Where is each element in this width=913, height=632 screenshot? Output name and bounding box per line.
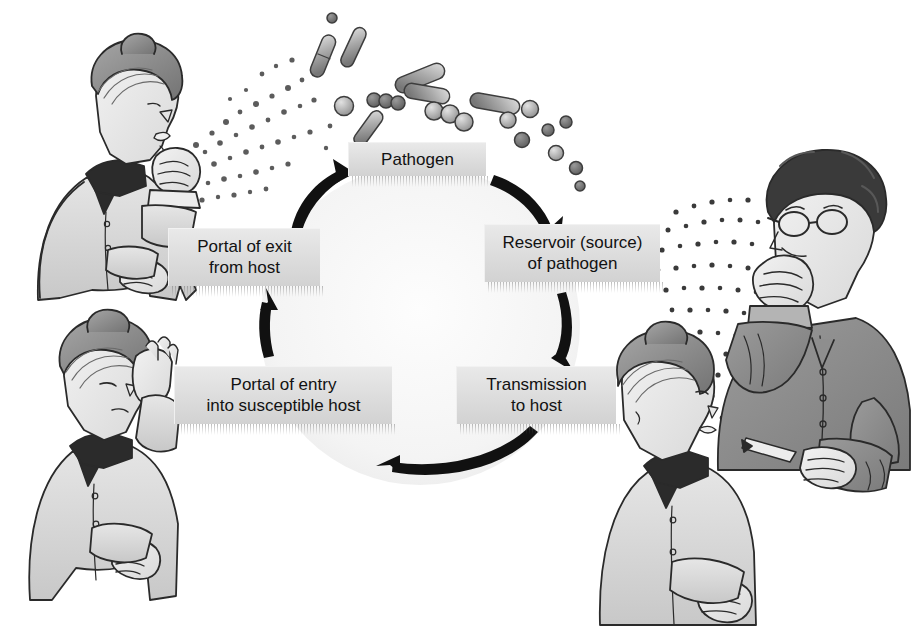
bacillus-rod bbox=[308, 25, 521, 148]
cycle-node-transmission-line2: to host bbox=[511, 396, 562, 415]
illustration-person-rubbing-eye bbox=[29, 310, 180, 600]
cycle-node-reservoir-line2: of pathogen bbox=[528, 254, 618, 273]
cycle-node-reservoir: Reservoir (source) of pathogen bbox=[484, 224, 660, 282]
cycle-node-pathogen: Pathogen bbox=[348, 142, 486, 176]
cycle-node-transmission-line1: Transmission bbox=[486, 375, 586, 394]
cycle-node-transmission-label: Transmission to host bbox=[486, 374, 586, 416]
cycle-node-exit-line2: from host bbox=[209, 258, 280, 277]
cycle-node-exit: Portal of exit from host bbox=[168, 228, 320, 286]
cycle-node-exit-label: Portal of exit from host bbox=[197, 236, 292, 278]
cycle-node-reservoir-line1: Reservoir (source) bbox=[503, 233, 643, 252]
cycle-node-entry-label: Portal of entry into susceptible host bbox=[206, 374, 360, 416]
cycle-node-entry-line1: Portal of entry bbox=[231, 375, 337, 394]
cycle-node-exit-line1: Portal of exit bbox=[197, 237, 292, 256]
infection-cycle-figure: Pathogen Reservoir (source) of pathogen … bbox=[0, 0, 913, 632]
cycle-node-pathogen-label: Pathogen bbox=[381, 149, 454, 170]
cycle-node-reservoir-label: Reservoir (source) of pathogen bbox=[503, 232, 643, 274]
cycle-node-transmission: Transmission to host bbox=[456, 366, 616, 424]
figure-artwork bbox=[0, 0, 913, 632]
cycle-node-entry-line2: into susceptible host bbox=[206, 396, 360, 415]
cycle-node-entry: Portal of entry into susceptible host bbox=[174, 366, 392, 424]
